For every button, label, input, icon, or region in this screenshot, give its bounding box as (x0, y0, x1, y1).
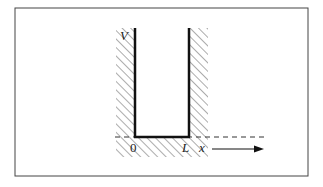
width-label: L (181, 140, 189, 155)
square-well-diagram: V 0 L x (0, 0, 323, 187)
x-axis-arrow-icon (212, 146, 264, 153)
potential-well (134, 28, 190, 137)
origin-label: 0 (130, 140, 137, 155)
right-wall-hatch (189, 28, 208, 157)
axis-label: x (198, 140, 205, 155)
left-wall-hatch (116, 28, 135, 157)
floor-hatch (135, 137, 189, 157)
